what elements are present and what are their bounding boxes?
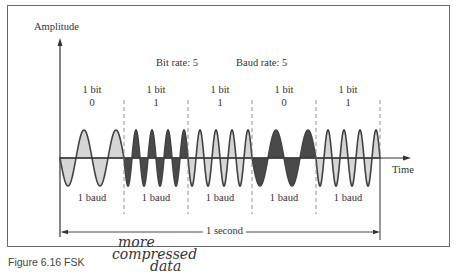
bit-label: 1 bit [72,84,112,95]
y-axis-label: Amplitude [34,21,79,32]
time-axis-arrow-icon [403,156,411,161]
baud-label: 1 baud [72,192,112,203]
duration-arrow-right-icon [373,230,380,234]
y-axis-arrow-icon [58,38,63,46]
baud-label: 1 baud [264,192,304,203]
bit-value: 1 [136,97,176,108]
bit-label: 1 bit [328,84,368,95]
bit-label: 1 bit [264,84,304,95]
bit-value: 1 [328,97,368,108]
bit-label: 1 bit [136,84,176,95]
handwritten-note-line-3: data [150,260,181,272]
bit-value: 1 [200,97,240,108]
duration-arrow-left-icon [61,230,68,234]
baud-rate-label: Baud rate: 5 [236,57,287,68]
figure-caption: Figure 6.16 FSK [8,256,84,268]
baud-label: 1 baud [328,192,368,203]
baud-label: 1 baud [136,192,176,203]
bit-label: 1 bit [200,84,240,95]
bit-rate-label: Bit rate: 5 [156,57,198,68]
bit-value: 0 [264,97,304,108]
x-axis-label: Time [392,164,414,175]
bit-value: 0 [72,97,112,108]
baud-label: 1 baud [200,192,240,203]
duration-label: 1 second [203,225,246,236]
